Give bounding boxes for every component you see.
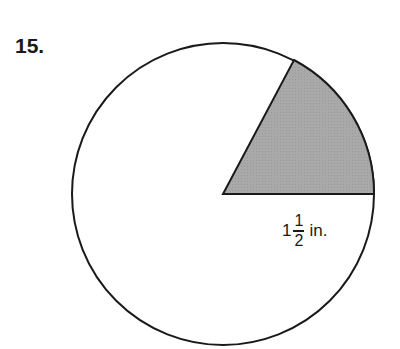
radius-unit: in. — [309, 221, 327, 241]
shaded-sector — [223, 60, 374, 194]
fraction-denominator: 2 — [295, 233, 304, 249]
radius-fraction: 1 2 — [293, 213, 304, 249]
circle-diagram — [0, 0, 400, 349]
radius-label: 1 1 2 in. — [282, 213, 327, 249]
radius-whole: 1 — [282, 221, 291, 241]
fraction-numerator: 1 — [295, 213, 304, 229]
